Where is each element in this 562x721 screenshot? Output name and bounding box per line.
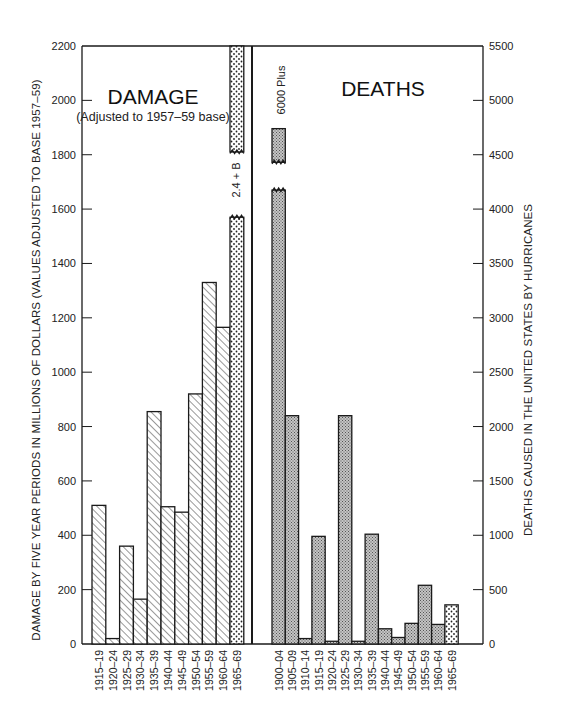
deaths-category-label: 1965–69 (446, 650, 458, 691)
damage-bar (147, 412, 161, 644)
right-tick-label: 1500 (489, 475, 513, 487)
damage-bar (106, 639, 120, 644)
deaths-category-label: 1925–29 (339, 650, 351, 691)
left-tick-label: 800 (58, 421, 76, 433)
deaths-category-label: 1900–04 (273, 650, 285, 691)
right-tick-label: 5500 (489, 40, 513, 52)
right-tick-label: 500 (489, 584, 507, 596)
deaths-bar (445, 605, 458, 644)
right-tick-label: 1000 (489, 529, 513, 541)
right-tick-label: 3500 (489, 257, 513, 269)
right-tick-label: 4500 (489, 149, 513, 161)
damage-title: DAMAGE (107, 85, 198, 108)
right-tick-label: 2500 (489, 366, 513, 378)
deaths-category-label: 1930–34 (352, 650, 364, 691)
damage-bar (92, 505, 106, 644)
deaths-bar (312, 536, 325, 644)
left-axis-title: DAMAGE BY FIVE YEAR PERIODS IN MILLIONS … (30, 79, 42, 641)
right-y-axis: 0500100015002000250030003500400045005000… (473, 40, 513, 650)
right-tick-label: 5000 (489, 94, 513, 106)
deaths-bar (365, 534, 378, 644)
damage-break-annotation: 2.4 + B (230, 162, 242, 197)
deaths-category-label: 1905–09 (286, 650, 298, 691)
deaths-bar (272, 190, 285, 644)
deaths-category-label: 1920–24 (326, 650, 338, 691)
hurricane-damage-deaths-chart: 0200400600800100012001400160018002000220… (0, 0, 562, 721)
left-tick-label: 0 (70, 638, 76, 650)
damage-category-label: 1935–39 (148, 650, 160, 691)
deaths-bar-upper (272, 129, 285, 163)
deaths-bar (392, 637, 405, 644)
deaths-bars (272, 129, 458, 644)
right-tick-label: 0 (489, 638, 495, 650)
deaths-category-label: 1960–64 (432, 650, 444, 691)
deaths-category-label: 1915–19 (313, 650, 325, 691)
deaths-bar (325, 641, 338, 644)
deaths-category-label: 1935–39 (366, 650, 378, 691)
category-labels: 1915–191920–241925–291930–341935–391940–… (93, 650, 458, 691)
deaths-bar (378, 629, 391, 644)
damage-category-label: 1915–19 (93, 650, 105, 691)
deaths-bar (339, 416, 352, 644)
damage-category-label: 1950–54 (190, 650, 202, 691)
left-tick-label: 1800 (52, 149, 76, 161)
damage-bar (175, 512, 189, 644)
deaths-bar (285, 416, 298, 644)
right-axis-title: DEATHS CAUSED IN THE UNITED STATES BY HU… (522, 204, 534, 536)
damage-bar (133, 599, 147, 644)
deaths-category-label: 1955–59 (419, 650, 431, 691)
left-tick-label: 2200 (52, 40, 76, 52)
damage-category-label: 1930–34 (134, 650, 146, 691)
deaths-bar (432, 624, 445, 644)
damage-category-label: 1940–44 (162, 650, 174, 691)
damage-bar (120, 546, 134, 644)
deaths-bar (352, 641, 365, 644)
damage-bar (216, 327, 230, 644)
left-tick-label: 1600 (52, 203, 76, 215)
deaths-bar (299, 639, 312, 644)
damage-subtitle: (Adjusted to 1957–59 base) (76, 110, 230, 124)
damage-category-label: 1925–29 (121, 650, 133, 691)
damage-bar (189, 394, 203, 644)
left-tick-label: 1200 (52, 312, 76, 324)
damage-bar (202, 282, 216, 644)
left-tick-label: 400 (58, 529, 76, 541)
deaths-category-label: 1940–44 (379, 650, 391, 691)
damage-bar (230, 217, 244, 644)
right-tick-label: 3000 (489, 312, 513, 324)
damage-category-label: 1945–49 (176, 650, 188, 691)
deaths-bar (418, 585, 431, 644)
left-y-axis: 0200400600800100012001400160018002000220… (52, 40, 92, 650)
left-tick-label: 2000 (52, 94, 76, 106)
deaths-bar (405, 623, 418, 644)
deaths-title: DEATHS (341, 77, 425, 100)
damage-bar (161, 507, 175, 644)
damage-category-label: 1955–59 (203, 650, 215, 691)
left-tick-label: 1400 (52, 257, 76, 269)
damage-category-label: 1965–69 (231, 650, 243, 691)
damage-bars (92, 46, 244, 644)
left-tick-label: 200 (58, 584, 76, 596)
deaths-category-label: 1910–14 (299, 650, 311, 691)
damage-category-label: 1920–24 (107, 650, 119, 691)
deaths-break-annotation: 6000 Plus (275, 65, 287, 114)
right-tick-label: 2000 (489, 421, 513, 433)
left-tick-label: 1000 (52, 366, 76, 378)
left-tick-label: 600 (58, 475, 76, 487)
right-tick-label: 4000 (489, 203, 513, 215)
damage-category-label: 1960–64 (217, 650, 229, 691)
deaths-category-label: 1950–54 (406, 650, 418, 691)
damage-bar-upper (230, 46, 244, 152)
deaths-category-label: 1945–49 (392, 650, 404, 691)
